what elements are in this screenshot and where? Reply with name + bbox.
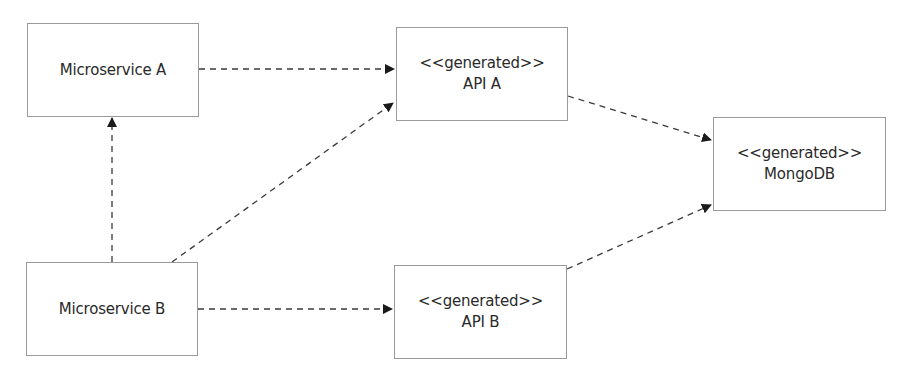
edge-msb-to-apia [172,103,393,262]
node-label: MongoDB [764,164,835,185]
node-stereotype: <<generated>> [737,143,862,164]
node-mongodb: <<generated>> MongoDB [713,117,886,211]
node-api-a: <<generated>> API A [396,27,568,121]
node-stereotype: <<generated>> [418,291,543,312]
node-label: Microservice A [60,60,166,81]
node-label: API A [463,74,501,95]
node-label: Microservice B [59,299,165,320]
node-api-b: <<generated>> API B [394,265,567,359]
node-microservice-b: Microservice B [26,262,198,356]
node-stereotype: <<generated>> [419,53,544,74]
edge-apia-to-mongodb [568,96,711,140]
edge-apib-to-mongodb [567,205,711,269]
node-microservice-a: Microservice A [27,23,199,117]
node-label: API B [462,312,500,333]
